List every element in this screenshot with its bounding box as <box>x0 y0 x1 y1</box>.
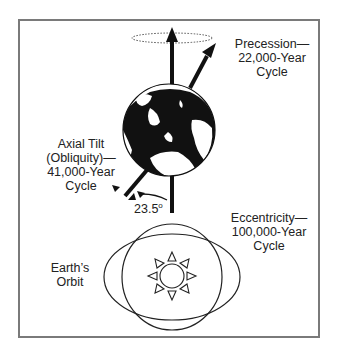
sun-icon <box>148 252 196 300</box>
earth-globe-icon <box>122 84 215 176</box>
axial-tilt-label: Axial Tilt (Obliquity)— 41,000-Year Cycl… <box>36 137 126 193</box>
precession-label: Precession— 22,000-Year Cycle <box>226 37 318 79</box>
tilt-angle-label: 23.5o <box>134 199 163 216</box>
eccentricity-label: Eccentricity— 100,000-Year Cycle <box>218 211 320 253</box>
earths-orbit-label: Earth’s Orbit <box>42 261 98 289</box>
